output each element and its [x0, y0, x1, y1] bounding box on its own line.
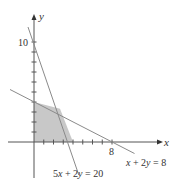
feasible-region — [34, 102, 73, 142]
line-x-plus-2y-eq-8 — [10, 90, 135, 154]
graph: x y 8 10 x + 2y = 8 5x + 2y = 20 — [0, 0, 171, 184]
line-5x-plus-2y-eq-20 — [28, 27, 79, 175]
line-label-x-plus-2y-eq-8: x + 2y = 8 — [125, 157, 166, 168]
line-label-5x-plus-2y-eq-20: 5x + 2y = 20 — [53, 168, 103, 179]
x-axis-arrow-icon — [157, 140, 163, 145]
y-axis-label: y — [38, 10, 44, 22]
y-axis-arrow-icon — [32, 14, 37, 20]
x-axis-label: x — [163, 136, 169, 148]
tick-label-y-10: 10 — [18, 37, 28, 48]
tick-label-x-8: 8 — [109, 146, 114, 157]
